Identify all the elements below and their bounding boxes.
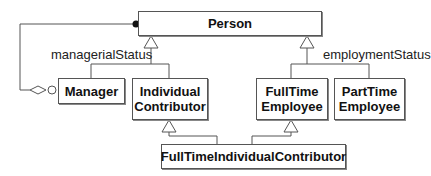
generalization-triangle-icon — [284, 120, 298, 132]
class-name-line1: Individual — [140, 84, 201, 99]
class-name-line2: Contributor — [134, 99, 205, 114]
class-manager: Manager — [58, 78, 125, 104]
class-name-line2: Employee — [261, 99, 322, 114]
fti-to-fte-line — [252, 132, 291, 144]
class-parttime-employee: PartTime Employee — [334, 78, 405, 120]
class-person: Person — [138, 11, 322, 36]
generalization-label-employment: employmentStatus — [323, 47, 431, 62]
class-name-line1: FullTime — [265, 84, 318, 99]
hollow-diamond-icon — [30, 86, 46, 94]
generalization-triangle-icon — [162, 120, 176, 132]
class-fulltime-employee: FullTime Employee — [256, 78, 328, 120]
class-name-line1: PartTime — [342, 84, 397, 99]
generalization-label-managerial: managerialStatus — [51, 47, 152, 62]
managerial-gen-branch — [91, 64, 169, 78]
class-name-line2: Employee — [339, 99, 400, 114]
class-individual-contributor: Individual Contributor — [132, 78, 208, 120]
employment-gen-branch — [291, 64, 369, 78]
generalization-triangle-icon — [300, 36, 314, 48]
class-fulltime-individual-contributor: FullTimeIndividualContributor — [161, 144, 346, 169]
fti-to-ic-line — [169, 132, 217, 144]
hollow-circle-icon — [48, 86, 56, 94]
